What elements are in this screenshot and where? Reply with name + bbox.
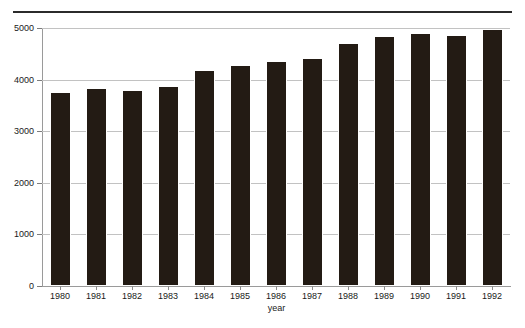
x-tick-label: 1982 bbox=[112, 292, 152, 301]
y-tick-mark bbox=[37, 28, 42, 29]
bar bbox=[482, 29, 503, 286]
x-tick-label: 1990 bbox=[400, 292, 440, 301]
x-tick-mark bbox=[132, 286, 133, 290]
x-tick-label: 1989 bbox=[364, 292, 404, 301]
x-tick-mark bbox=[492, 286, 493, 290]
bar bbox=[446, 35, 467, 286]
x-tick-mark bbox=[96, 286, 97, 290]
x-tick-mark bbox=[168, 286, 169, 290]
y-tick-label: 4000 bbox=[0, 76, 34, 85]
bar bbox=[302, 58, 323, 286]
x-tick-mark bbox=[312, 286, 313, 290]
x-tick-label: 1991 bbox=[436, 292, 476, 301]
x-tick-mark bbox=[276, 286, 277, 290]
chart-figure: 010002000300040005000 dollars year 19801… bbox=[0, 0, 525, 328]
y-tick-mark bbox=[37, 234, 42, 235]
plot-area bbox=[42, 28, 510, 286]
x-tick-label: 1988 bbox=[328, 292, 368, 301]
x-tick-mark bbox=[384, 286, 385, 290]
y-tick-mark bbox=[37, 80, 42, 81]
header-divider bbox=[13, 11, 512, 13]
x-tick-mark bbox=[240, 286, 241, 290]
x-axis-title: year bbox=[42, 303, 511, 313]
bar bbox=[230, 65, 251, 286]
bar bbox=[86, 88, 107, 286]
bar bbox=[374, 36, 395, 286]
x-tick-mark bbox=[420, 286, 421, 290]
y-tick-mark bbox=[37, 183, 42, 184]
x-tick-label: 1986 bbox=[256, 292, 296, 301]
x-tick-label: 1984 bbox=[184, 292, 224, 301]
y-axis-title: dollars bbox=[0, 95, 1, 122]
x-tick-label: 1987 bbox=[292, 292, 332, 301]
y-tick-label: 0 bbox=[0, 282, 34, 291]
clipped-header-remnant bbox=[0, 0, 525, 9]
y-tick-label: 5000 bbox=[0, 24, 34, 33]
y-tick-label: 1000 bbox=[0, 230, 34, 239]
x-tick-label: 1981 bbox=[76, 292, 116, 301]
y-tick-label: 3000 bbox=[0, 127, 34, 136]
x-tick-mark bbox=[456, 286, 457, 290]
bar bbox=[194, 70, 215, 286]
y-tick-label: 2000 bbox=[0, 179, 34, 188]
x-tick-label: 1985 bbox=[220, 292, 260, 301]
bar bbox=[266, 61, 287, 286]
y-tick-mark bbox=[37, 131, 42, 132]
x-tick-label: 1992 bbox=[472, 292, 512, 301]
x-tick-mark bbox=[348, 286, 349, 290]
bar bbox=[50, 92, 71, 286]
bar bbox=[338, 43, 359, 286]
bar bbox=[410, 33, 431, 286]
x-tick-mark bbox=[204, 286, 205, 290]
x-tick-label: 1983 bbox=[148, 292, 188, 301]
bar bbox=[158, 86, 179, 286]
x-tick-mark bbox=[60, 286, 61, 290]
gridline-y bbox=[42, 28, 510, 29]
y-tick-mark bbox=[37, 286, 42, 287]
bar bbox=[122, 90, 143, 286]
x-tick-label: 1980 bbox=[40, 292, 80, 301]
